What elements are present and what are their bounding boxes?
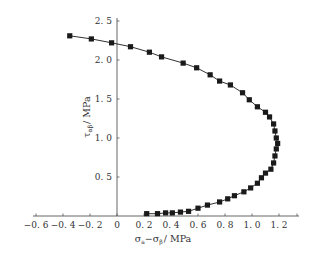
x-tick-label: 0. 6 [189, 220, 206, 230]
data-point-marker [147, 50, 152, 55]
data-point-marker [228, 82, 233, 87]
data-point-marker [163, 210, 168, 215]
data-point-marker [271, 121, 276, 126]
data-point-marker [263, 110, 268, 115]
x-tick-label: 1. 0 [243, 220, 260, 230]
data-point-marker [205, 202, 210, 207]
x-tick-label: 0. 2 [135, 220, 152, 230]
data-point-marker [186, 209, 191, 214]
data-point-marker [274, 146, 279, 151]
y-tick-label: 1. 0 [95, 133, 112, 143]
data-point-marker [267, 114, 272, 119]
y-axis-ticks: 0. 51. 01. 52. 02. 5 [95, 16, 120, 182]
data-point-marker [271, 160, 276, 165]
data-point-marker [263, 171, 268, 176]
x-tick-label: 0. 4 [162, 220, 179, 230]
data-point-marker [225, 196, 230, 201]
data-point-marker [275, 141, 280, 146]
y-axis-label: ταβ/ MPa [81, 96, 94, 138]
data-point-marker [259, 175, 264, 180]
y-tick-label: 1. 5 [95, 94, 112, 104]
data-point-marker [144, 211, 149, 216]
data-point-marker [155, 211, 160, 216]
data-point-marker [194, 65, 199, 70]
x-tick-label: 0 [114, 220, 120, 230]
chart-container: −0. 6−0. 4−0. 200. 20. 40. 60. 81. 01. 2… [0, 0, 317, 261]
data-point-marker [232, 193, 237, 198]
data-point-marker [217, 199, 222, 204]
axes [33, 18, 299, 216]
data-point-marker [272, 128, 277, 133]
x-tick-label: −0. 6 [24, 220, 49, 230]
y-tick-label: 0. 5 [95, 172, 112, 182]
data-point-marker [159, 54, 164, 59]
plot-area: −0. 6−0. 4−0. 200. 20. 40. 60. 81. 01. 2… [0, 0, 317, 261]
data-point-marker [128, 44, 133, 49]
data-point-marker [272, 153, 277, 158]
x-tick-label: −0. 4 [51, 220, 76, 230]
data-point-marker [241, 189, 246, 194]
data-point-marker [268, 167, 273, 172]
data-point-marker [255, 104, 260, 109]
x-tick-label: −0. 2 [78, 220, 103, 230]
data-point-marker [255, 181, 260, 186]
data-point-marker [208, 72, 213, 77]
data-point-marker [195, 206, 200, 211]
data-point-marker [89, 36, 94, 41]
data-point-marker [178, 210, 183, 215]
data-point-marker [109, 40, 114, 45]
x-tick-label: 1. 2 [270, 220, 287, 230]
data-point-marker [67, 33, 72, 38]
data-point-marker [274, 135, 279, 140]
data-point-marker [181, 61, 186, 66]
data-point-marker [170, 210, 175, 215]
y-tick-label: 2. 0 [95, 55, 112, 65]
x-tick-label: 0. 8 [216, 220, 233, 230]
x-axis-label: σa−σβ/ MPa [135, 233, 192, 246]
data-point-marker [240, 90, 245, 95]
data-point-marker [217, 78, 222, 83]
data-point-marker [247, 97, 252, 102]
y-tick-label: 2. 5 [95, 16, 112, 26]
data-point-marker [248, 185, 253, 190]
